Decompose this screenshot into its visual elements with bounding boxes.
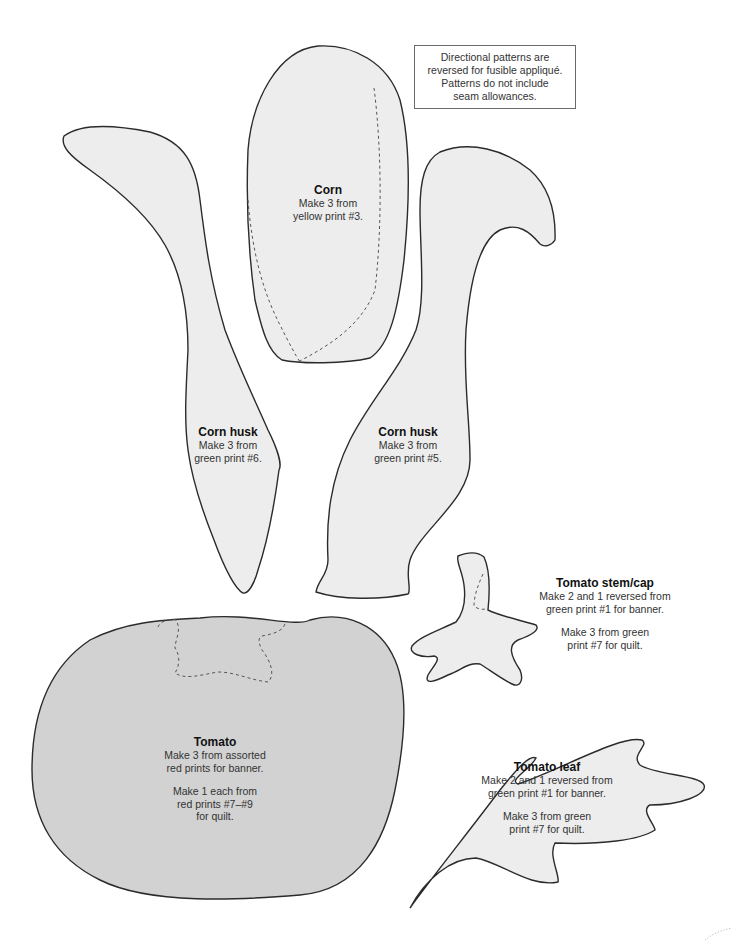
tomato-instruction: for quilt.	[150, 810, 280, 823]
note-line: Directional patterns are	[428, 51, 563, 64]
tomato-title: Tomato	[150, 735, 280, 749]
tomato-stem-cap-title: Tomato stem/cap	[530, 576, 680, 590]
tomato-instruction: Make 1 each from	[150, 785, 280, 798]
corn-husk-left-label: Corn husk Make 3 from green print #6.	[186, 425, 270, 464]
pattern-sheet	[0, 0, 732, 940]
corn-instruction: yellow print #3.	[278, 210, 378, 223]
corn-husk-right-label: Corn husk Make 3 from green print #5.	[366, 425, 450, 464]
corn-instruction: Make 3 from	[278, 197, 378, 210]
tomato-instruction: red prints for banner.	[150, 762, 280, 775]
tomato-stem-cap-label: Tomato stem/cap Make 2 and 1 reversed fr…	[530, 576, 680, 651]
tomato-leaf-instruction: print #7 for quilt.	[472, 823, 622, 836]
corn-husk-left-title: Corn husk	[186, 425, 270, 439]
tomato-leaf-instruction: Make 2 and 1 reversed from	[472, 774, 622, 787]
tomato-leaf-title: Tomato leaf	[472, 760, 622, 774]
corn-title: Corn	[278, 183, 378, 197]
tomato-stem-cap-instruction: Make 3 from green	[530, 626, 680, 639]
corn-husk-left-instruction: Make 3 from	[186, 439, 270, 452]
tomato-instruction: red prints #7–#9	[150, 798, 280, 811]
tomato-leaf-instruction: Make 3 from green	[472, 810, 622, 823]
page-corner-mark	[705, 928, 732, 940]
tomato-stem-cap-piece	[411, 553, 537, 685]
pattern-note: Directional patterns are reversed for fu…	[414, 45, 576, 109]
tomato-instruction: Make 3 from assorted	[150, 749, 280, 762]
tomato-leaf-instruction: green print #1 for banner.	[472, 787, 622, 800]
corn-husk-right-instruction: green print #5.	[366, 452, 450, 465]
corn-husk-left-instruction: green print #6.	[186, 452, 270, 465]
tomato-leaf-label: Tomato leaf Make 2 and 1 reversed from g…	[472, 760, 622, 835]
corn-label: Corn Make 3 from yellow print #3.	[278, 183, 378, 222]
corn-husk-right-title: Corn husk	[366, 425, 450, 439]
tomato-stem-cap-instruction: print #7 for quilt.	[530, 639, 680, 652]
tomato-label: Tomato Make 3 from assorted red prints f…	[150, 735, 280, 823]
tomato-stem-cap-instruction: green print #1 for banner.	[530, 603, 680, 616]
corn-husk-right-instruction: Make 3 from	[366, 439, 450, 452]
note-line: Patterns do not include	[428, 77, 563, 90]
note-line: reversed for fusible appliqué.	[428, 64, 563, 77]
tomato-stem-cap-instruction: Make 2 and 1 reversed from	[530, 590, 680, 603]
note-line: seam allowances.	[428, 90, 563, 103]
